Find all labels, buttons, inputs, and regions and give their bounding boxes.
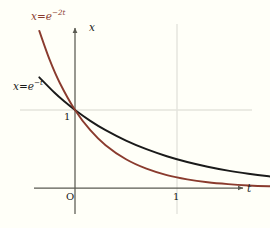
curve-label-exponent: −t (34, 78, 43, 87)
tick-label-x-1: 1 (64, 112, 70, 122)
curves (39, 31, 270, 187)
curve-label-exp-minus-t: x=e−t (13, 79, 43, 91)
exponential-decay-figure: x=e−2t x=e−t x t O 1 1 (0, 0, 270, 228)
curve-label-exponent: −2t (52, 8, 65, 17)
origin-label: O (66, 192, 74, 202)
curve-label-equals: = (37, 10, 46, 22)
axis-label-t: t (247, 183, 251, 194)
curve-exp-minus-t (39, 77, 270, 179)
plot-canvas (0, 0, 270, 228)
curve-label-exp-minus-2t: x=e−2t (31, 9, 65, 21)
curve-exp-minus-2t (39, 31, 270, 187)
gridlines (20, 24, 252, 214)
curve-label-equals: = (19, 80, 28, 92)
tick-label-t-1: 1 (173, 192, 179, 202)
axis-label-x: x (89, 22, 95, 33)
